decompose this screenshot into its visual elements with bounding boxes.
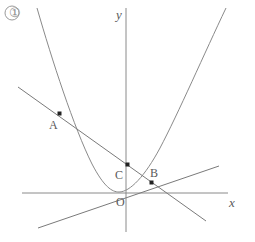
x-axis-label: x <box>229 196 235 209</box>
point-marker-b <box>150 181 154 185</box>
line-through-b <box>38 166 219 228</box>
point-label-a: A <box>49 119 58 131</box>
parabola-curve <box>37 8 226 192</box>
origin-label: O <box>116 196 125 208</box>
figure-number-label: ① <box>9 6 21 19</box>
line-ab <box>18 87 206 221</box>
point-label-b: B <box>150 167 158 179</box>
point-label-c: C <box>115 169 123 181</box>
figure-canvas <box>0 0 255 242</box>
y-axis-label: y <box>116 8 122 21</box>
point-marker-c <box>126 163 130 167</box>
geometry-figure: ① y x O A C B <box>0 0 255 242</box>
point-marker-a <box>58 112 62 116</box>
